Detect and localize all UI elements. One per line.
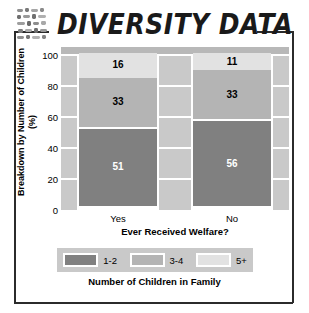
legend-label: 3-4 [170, 255, 184, 266]
bar-value-label: 11 [227, 57, 238, 67]
y-tick-label: 0 [53, 205, 58, 216]
mosaic-tiles-icon [16, 7, 50, 41]
bar-value-label: 33 [112, 97, 123, 107]
chart-area: Breakdown by Number of Children (%) 0204… [0, 55, 309, 240]
legend-label: 1-2 [103, 255, 117, 266]
figure-title-bar: DIVERSITY DATA [0, 2, 309, 46]
bar-yes: 513316 [77, 55, 159, 210]
x-tick-label: Yes [110, 213, 126, 224]
legend-label: 5+ [236, 255, 247, 266]
y-tick-label: 40 [47, 143, 58, 154]
x-axis-label: Ever Received Welfare? [61, 226, 289, 237]
legend-entry: 1-2 [63, 253, 117, 267]
bar-value-label: 33 [226, 90, 237, 100]
bar-value-label: 56 [226, 159, 237, 169]
plot-panel: 513316563311 [61, 55, 289, 210]
bar-segment: 16 [79, 53, 157, 78]
y-tick-label: 60 [47, 112, 58, 123]
bar-value-label: 51 [112, 162, 123, 172]
bar-segment: 33 [193, 70, 271, 121]
bar-segment: 51 [79, 129, 157, 208]
legend-swatch [63, 253, 98, 267]
x-tick-label: No [226, 213, 238, 224]
bar-value-label: 16 [112, 60, 123, 70]
y-tick-label: 80 [47, 81, 58, 92]
bar-no: 563311 [191, 55, 273, 210]
y-tick-label: 100 [42, 50, 58, 61]
legend-swatch [130, 253, 165, 267]
legend-swatch [196, 253, 231, 267]
y-axis-ticks: 020406080100 [32, 55, 58, 210]
legend-title: Number of Children in Family [0, 276, 309, 287]
legend-entry: 3-4 [130, 253, 184, 267]
bar-segment: 11 [193, 53, 271, 70]
page-title: DIVERSITY DATA [57, 10, 293, 38]
y-tick-label: 20 [47, 174, 58, 185]
bar-segment: 56 [193, 121, 271, 208]
legend: 1-23-45+ [57, 248, 253, 272]
legend-entry: 5+ [196, 253, 247, 267]
bar-segment: 33 [79, 78, 157, 129]
frame-border-bottom [14, 302, 293, 304]
figure-container: DIVERSITY DATA Breakdown by Number of Ch… [0, 0, 309, 313]
